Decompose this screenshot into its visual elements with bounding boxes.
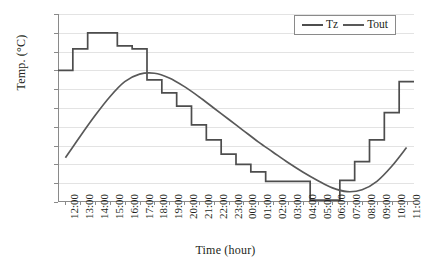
data-series-layer (58, 14, 414, 202)
x-tick-label: 03:00 (292, 194, 303, 219)
legend-label-tout: Tout (367, 19, 388, 31)
x-tick-mark (125, 201, 126, 205)
x-tick-mark (407, 201, 408, 205)
x-tick-mark (258, 201, 259, 205)
x-tick-label: 10:00 (396, 194, 407, 219)
x-axis-title: Time (hour) (0, 243, 421, 258)
x-tick-mark (140, 201, 141, 205)
x-tick-mark (110, 201, 111, 205)
x-tick-mark (154, 201, 155, 205)
x-tick-label: 12:00 (69, 194, 80, 219)
x-tick-mark (377, 201, 378, 205)
x-tick-label: 00:00 (247, 194, 258, 219)
x-tick-mark (65, 201, 66, 205)
x-tick-mark (243, 201, 244, 205)
chart-container: Temp. (°C) Time (hour) 14.016.018.020.02… (0, 0, 421, 267)
y-tick-mark (54, 202, 58, 203)
x-tick-label: 17:00 (144, 194, 155, 219)
x-tick-label: 18:00 (158, 194, 169, 219)
legend-line-tout-icon (343, 24, 364, 26)
x-tick-mark (318, 201, 319, 205)
series-line-tz (58, 33, 414, 200)
x-tick-mark (169, 201, 170, 205)
x-tick-mark (184, 201, 185, 205)
legend-line-tz-icon (302, 24, 323, 26)
chart-legend: Tz Tout (294, 15, 396, 35)
x-tick-mark (332, 201, 333, 205)
x-tick-mark (288, 201, 289, 205)
x-tick-label: 21:00 (203, 194, 214, 219)
x-tick-mark (273, 201, 274, 205)
x-tick-label: 01:00 (262, 194, 273, 219)
x-tick-label: 06:00 (336, 194, 347, 219)
x-tick-label: 20:00 (188, 194, 199, 219)
x-tick-mark (214, 201, 215, 205)
x-tick-mark (347, 201, 348, 205)
x-tick-mark (303, 201, 304, 205)
y-axis-title: Temp. (°C) (14, 0, 29, 128)
x-tick-label: 22:00 (218, 194, 229, 219)
x-tick-label: 07:00 (351, 194, 362, 219)
x-tick-label: 09:00 (381, 194, 392, 219)
x-tick-label: 05:00 (322, 194, 333, 219)
x-tick-label: 19:00 (173, 194, 184, 219)
x-tick-label: 15:00 (114, 194, 125, 219)
legend-item-tout: Tout (343, 19, 388, 31)
legend-label-tz: Tz (326, 19, 338, 31)
x-tick-mark (199, 201, 200, 205)
x-tick-label: 23:00 (233, 194, 244, 219)
x-tick-mark (362, 201, 363, 205)
x-tick-label: 14:00 (99, 194, 110, 219)
x-tick-label: 13:00 (84, 194, 95, 219)
x-tick-label: 11:00 (411, 194, 421, 219)
legend-item-tz: Tz (302, 19, 338, 31)
x-tick-label: 04:00 (307, 194, 318, 219)
x-tick-mark (229, 201, 230, 205)
plot-area: 12:0013:0014:0015:0016:0017:0018:0019:00… (58, 14, 414, 202)
x-tick-label: 16:00 (129, 194, 140, 219)
x-tick-mark (80, 201, 81, 205)
x-tick-mark (95, 201, 96, 205)
x-tick-label: 08:00 (366, 194, 377, 219)
x-tick-mark (392, 201, 393, 205)
x-tick-label: 02:00 (277, 194, 288, 219)
